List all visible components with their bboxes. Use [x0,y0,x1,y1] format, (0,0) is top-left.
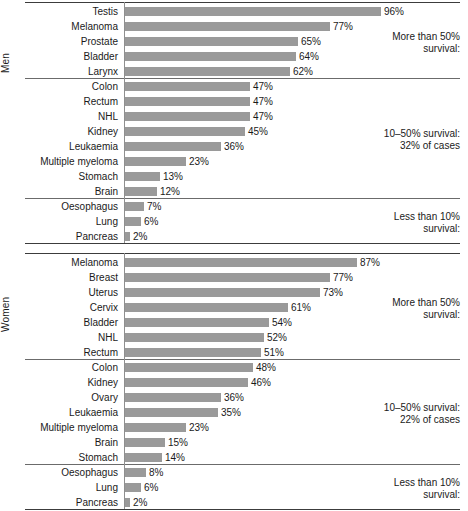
bar-track: 36% [125,393,464,402]
bar-track: 51% [125,348,464,357]
value-label: 48% [256,362,276,374]
value-label: 54% [272,317,292,329]
value-bar [125,438,165,447]
value-bar [125,157,186,166]
band-annotation-line1: Less than 10% [394,211,460,222]
value-label: 36% [224,141,244,153]
section-divider [25,253,460,254]
value-label: 8% [149,467,163,479]
band-annotation: 10–50% survival:22% of cases [344,402,460,426]
bar-row: Brain15% [0,436,468,451]
category-label: Pancreas [25,231,118,243]
band-annotation: 10–50% survival:32% of cases [344,128,460,152]
value-label: 47% [253,81,273,93]
band-annotation-line1: Less than 10% [394,477,460,488]
bar-row: Melanoma87% [0,256,468,271]
value-label: 47% [253,111,273,123]
value-label: 23% [189,156,209,168]
value-bar [125,348,261,357]
bar-track: 8% [125,468,464,477]
band-annotation: Less than 10%survival: [344,211,460,235]
category-label: Kidney [25,377,118,389]
bar-track: 77% [125,22,464,31]
value-label: 6% [144,216,158,228]
category-label: Multiple myeloma [25,422,118,434]
category-label: Multiple myeloma [25,156,118,168]
bar-track: 46% [125,378,464,387]
bar-row: Colon48% [0,361,468,376]
band-annotation-line2: survival: [344,309,460,321]
bar-row: Multiple myeloma23% [0,155,468,170]
value-bar [125,408,218,417]
value-label: 12% [160,186,180,198]
panel-label-men: Men [0,33,14,93]
value-label: 73% [323,287,343,299]
value-bar [125,288,320,297]
band-annotation: More than 50%survival: [344,31,460,55]
bar-track: 87% [125,258,464,267]
bar-track: 13% [125,172,464,181]
value-label: 62% [293,66,313,78]
bar-row: NHL52% [0,331,468,346]
bar-track: 73% [125,288,464,297]
category-label: Leukaemia [25,141,118,153]
bar-row: Rectum47% [0,95,468,110]
value-bar [125,7,381,16]
bar-row: NHL47% [0,110,468,125]
value-bar [125,393,221,402]
value-label: 7% [147,201,161,213]
value-label: 96% [384,6,404,18]
band-annotation-line1: More than 50% [392,297,460,308]
value-bar [125,127,245,136]
category-label: Cervix [25,302,118,314]
category-label: NHL [25,111,118,123]
value-label: 87% [360,257,380,269]
bar-track: 23% [125,157,464,166]
value-label: 64% [299,51,319,63]
value-bar [125,333,264,342]
section-divider [25,359,460,360]
value-bar [125,363,253,372]
value-label: 6% [144,482,158,494]
value-axis-line [124,2,125,243]
value-bar [125,378,248,387]
value-label: 36% [224,392,244,404]
bar-row: Stomach13% [0,170,468,185]
category-label: NHL [25,332,118,344]
bar-track: 62% [125,67,464,76]
category-label: Rectum [25,96,118,108]
bar-track: 12% [125,187,464,196]
value-bar [125,67,290,76]
bar-track: 77% [125,273,464,282]
value-label: 65% [301,36,321,48]
value-bar [125,172,160,181]
category-label: Kidney [25,126,118,138]
bar-track: 47% [125,112,464,121]
value-label: 15% [168,437,188,449]
value-label: 13% [163,171,183,183]
value-label: 47% [253,96,273,108]
value-bar [125,142,221,151]
value-bar [125,22,330,31]
category-label: Bladder [25,317,118,329]
category-label: Ovary [25,392,118,404]
value-bar [125,258,357,267]
band-annotation-line2: survival: [344,43,460,55]
value-bar [125,273,330,282]
section-divider [25,78,460,79]
value-bar [125,52,296,61]
section-divider [25,464,460,465]
value-label: 14% [165,452,185,464]
bar-track: 47% [125,82,464,91]
value-axis-line [124,253,125,509]
band-annotation-line2: survival: [344,223,460,235]
category-label: Brain [25,437,118,449]
band-annotation-line1: More than 50% [392,31,460,42]
value-label: 35% [221,407,241,419]
section-divider [25,198,460,199]
value-bar [125,483,141,492]
category-label: Oesophagus [25,201,118,213]
value-bar [125,423,186,432]
bar-track: 52% [125,333,464,342]
